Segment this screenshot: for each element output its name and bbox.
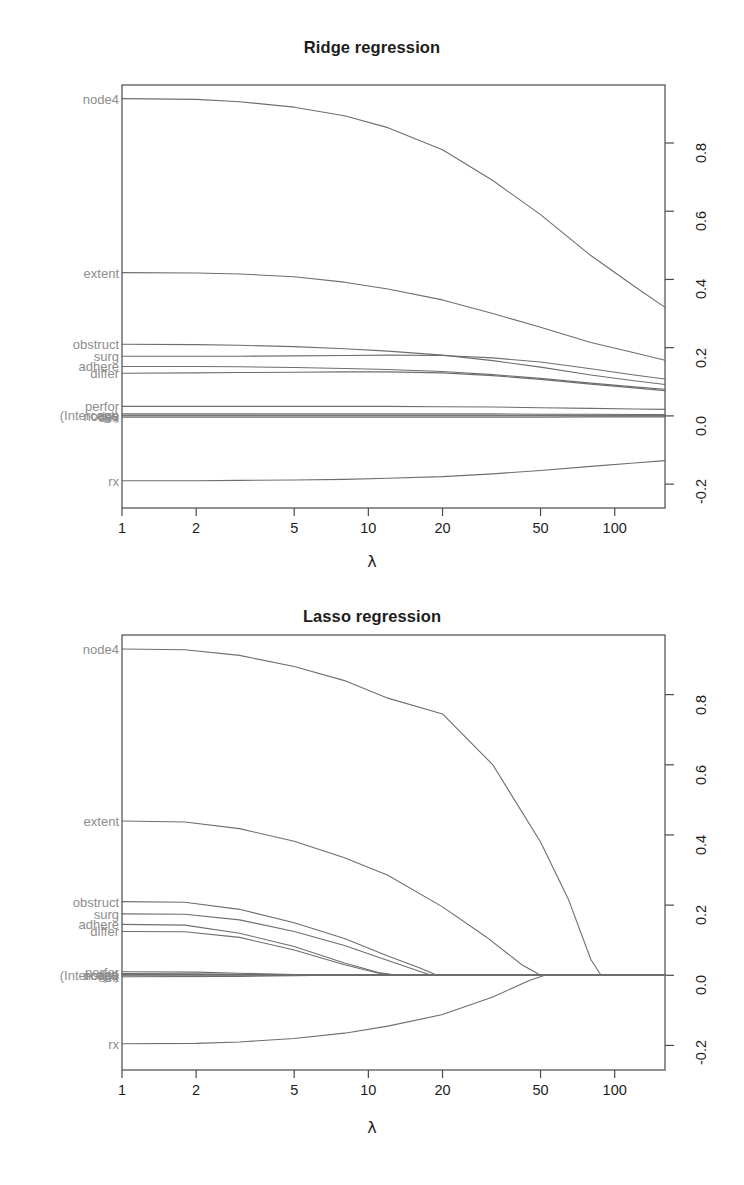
coef-path-extent [122, 273, 665, 361]
coef-label: extent [84, 265, 119, 280]
ridge-xaxis-label: λ [0, 552, 744, 571]
coef-path-rx [122, 975, 665, 1043]
coef-path-rx [122, 461, 665, 481]
xaxis-tick-label: 5 [290, 1082, 298, 1098]
coef-path-differ [122, 931, 665, 975]
coef-label: rx [108, 1036, 119, 1051]
lasso-regression-panel: Lasso regression λ 125102050100-0.20.00.… [0, 593, 744, 1185]
xaxis-tick-label: 100 [603, 1082, 627, 1098]
yaxis-tick-label: 0.2 [693, 347, 709, 367]
yaxis-tick-label: 0.0 [693, 975, 709, 995]
yaxis-tick-label: 0.2 [693, 905, 709, 925]
coef-path-age [122, 414, 665, 415]
xaxis-tick-label: 5 [290, 520, 298, 536]
xaxis-tick-label: 2 [192, 520, 200, 536]
yaxis-tick-label: 0.4 [693, 279, 709, 299]
xaxis-tick-label: 2 [192, 1082, 200, 1098]
yaxis-tick-label: -0.2 [693, 1040, 709, 1065]
xaxis-tick-label: 20 [434, 520, 450, 536]
xaxis-tick-label: 1 [118, 1082, 126, 1098]
coef-label: node4 [83, 91, 119, 106]
coef-path-surg [122, 914, 665, 975]
coef-label: extent [84, 813, 119, 828]
xaxis-tick-label: 10 [360, 1082, 376, 1098]
yaxis-tick-label: 0.6 [693, 765, 709, 785]
yaxis-tick-label: 0.8 [693, 143, 709, 163]
coef-path-obstruct [122, 344, 665, 384]
coef-path-surg [122, 355, 665, 379]
xaxis-tick-label: 50 [532, 1082, 548, 1098]
yaxis-tick-label: 0.6 [693, 211, 709, 231]
coef-label: rx [108, 473, 119, 488]
coef-path-adhere [122, 924, 665, 975]
ridge-plot-canvas [0, 0, 744, 592]
ridge-regression-panel: Ridge regression λ 125102050100-0.20.00.… [0, 0, 744, 592]
xaxis-tick-label: 100 [603, 520, 627, 536]
coef-path-adhere [122, 366, 665, 389]
coef-label: sex [99, 969, 119, 984]
xaxis-tick-label: 20 [434, 1082, 450, 1098]
yaxis-tick-label: -0.2 [693, 479, 709, 504]
xaxis-tick-label: 10 [360, 520, 376, 536]
xaxis-tick-label: 1 [118, 520, 126, 536]
coef-label: differ [90, 924, 119, 939]
yaxis-tick-label: 0.8 [693, 694, 709, 714]
coef-path-extent [122, 821, 665, 975]
coef-label: differ [90, 366, 119, 381]
xaxis-tick-label: 50 [532, 520, 548, 536]
coef-path-perfor [122, 406, 665, 409]
coef-path-node4 [122, 99, 665, 308]
yaxis-tick-label: 0.4 [693, 835, 709, 855]
coef-path-node4 [122, 649, 665, 975]
coef-path-differ [122, 372, 665, 391]
coef-label: sex [99, 410, 119, 425]
coef-label: node4 [83, 642, 119, 657]
lasso-xaxis-label: λ [0, 1118, 744, 1137]
yaxis-tick-label: 0.0 [693, 416, 709, 436]
